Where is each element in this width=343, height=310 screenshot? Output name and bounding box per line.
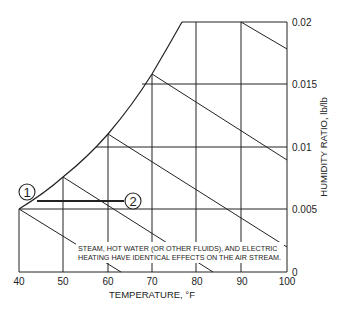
note-line-1: STEAM, HOT WATER (OR OTHER FLUIDS), AND … xyxy=(78,244,278,253)
y-tick-labels: 0 0.005 0.01 0.015 0.02 xyxy=(292,17,317,278)
point-2-label: 2 xyxy=(129,194,136,209)
y-tick: 0.015 xyxy=(292,79,317,90)
point-2-marker: 2 xyxy=(125,193,141,209)
wet-bulb-line-3 xyxy=(108,134,287,247)
y-tick: 0 xyxy=(292,267,298,278)
y-tick: 0.02 xyxy=(292,17,312,28)
x-tick: 60 xyxy=(102,276,114,287)
y-axis-title: HUMIDITY RATIO, lb/lb xyxy=(318,97,329,196)
x-tick: 90 xyxy=(236,276,248,287)
saturation-curve xyxy=(19,22,182,209)
x-tick: 70 xyxy=(146,276,158,287)
x-tick: 50 xyxy=(57,276,69,287)
y-tick: 0.005 xyxy=(292,204,317,215)
note-line-2: HEATING HAVE IDENTICAL EFFECTS ON THE AI… xyxy=(78,253,281,262)
x-tick-labels: 40 50 60 70 80 90 100 xyxy=(13,276,295,287)
x-axis-title: TEMPERATURE, °F xyxy=(109,289,195,300)
x-tick: 40 xyxy=(13,276,25,287)
wet-bulb-line-5 xyxy=(241,22,287,49)
x-tick: 80 xyxy=(191,276,203,287)
point-1-marker: 1 xyxy=(19,184,35,200)
point-1-label: 1 xyxy=(23,185,30,200)
psychrometric-chart: STEAM, HOT WATER (OR OTHER FLUIDS), AND … xyxy=(0,0,343,310)
y-tick: 0.01 xyxy=(292,142,312,153)
